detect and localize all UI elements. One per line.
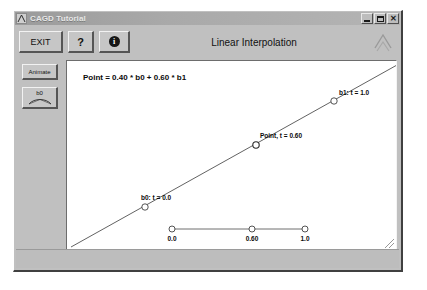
content-area: Animate b0: [16, 58, 399, 254]
title-bar: CAGD Tutorial ✕: [15, 12, 400, 25]
maximize-button[interactable]: [374, 13, 386, 24]
drawing-canvas[interactable]: Point = 0.40 * b0 + 0.60 * b1 b0: t = 0.…: [66, 60, 397, 251]
resize-grip[interactable]: [384, 238, 395, 249]
axis-marker-2[interactable]: [302, 226, 308, 232]
help-button[interactable]: ?: [68, 31, 94, 53]
axis-tick-label-1: 0.60: [241, 235, 263, 242]
window-title: CAGD Tutorial: [30, 14, 86, 23]
axis-tick-label-0: 0.0: [161, 235, 183, 242]
status-bar: [16, 249, 399, 268]
window-controls: ✕: [361, 13, 399, 24]
screenshot-root: CAGD Tutorial ✕ EXIT ? i Linear Inter: [0, 0, 427, 290]
axis-tick-label-2: 1.0: [294, 235, 316, 242]
sidebar-item-animate[interactable]: Animate: [22, 64, 58, 80]
minimize-icon: [364, 20, 370, 22]
equation-label: Point = 0.40 * b0 + 0.60 * b1: [83, 73, 186, 82]
axis-marker-1[interactable]: [249, 226, 255, 232]
sidebar-item-b0[interactable]: b0: [22, 87, 58, 109]
point-marker-b1[interactable]: [331, 98, 337, 104]
toolbar: EXIT ? i Linear Interpolation: [16, 27, 399, 57]
point-label-point: Point, t = 0.60: [260, 132, 302, 139]
cagd-logo-icon: [16, 13, 27, 24]
minimize-button[interactable]: [361, 13, 373, 24]
chevron-logo-icon: [371, 31, 395, 53]
point-label-b1: b1: t = 1.0: [339, 89, 369, 96]
close-icon: ✕: [390, 15, 397, 23]
page-title: Linear Interpolation: [135, 37, 399, 48]
point-marker-b0[interactable]: [142, 204, 148, 210]
curve-icon: [28, 97, 52, 106]
info-icon: i: [109, 36, 120, 47]
close-button[interactable]: ✕: [387, 13, 399, 24]
sidebar-item-label: Animate: [28, 69, 50, 75]
sidebar-item-label: b0: [36, 90, 43, 96]
point-marker-point[interactable]: [253, 142, 259, 148]
application-window: CAGD Tutorial ✕ EXIT ? i Linear Inter: [13, 10, 403, 272]
maximize-icon: [377, 16, 384, 22]
axis-marker-0[interactable]: [169, 226, 175, 232]
point-label-b0: b0: t = 0.0: [141, 194, 171, 201]
exit-button[interactable]: EXIT: [19, 31, 63, 53]
sidebar: Animate b0: [16, 58, 66, 254]
info-button[interactable]: i: [99, 31, 130, 53]
